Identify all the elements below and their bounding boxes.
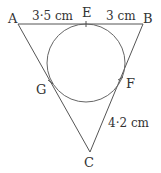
triangle-figure [0,0,161,173]
point-b-label: B [143,12,153,25]
point-g-label: G [36,83,46,96]
point-c-label: C [84,156,94,169]
point-a-label: A [8,12,17,25]
point-e-label: E [82,6,92,19]
point-f-label: F [126,77,135,90]
incircle [47,24,125,102]
measurement-fc: 4·2 cm [108,117,149,129]
measurement-ae: 3·5 cm [32,10,73,22]
diagram-canvas: A E B G F C 3·5 cm 3 cm 4·2 cm [0,0,161,173]
measurement-eb: 3 cm [106,10,136,22]
